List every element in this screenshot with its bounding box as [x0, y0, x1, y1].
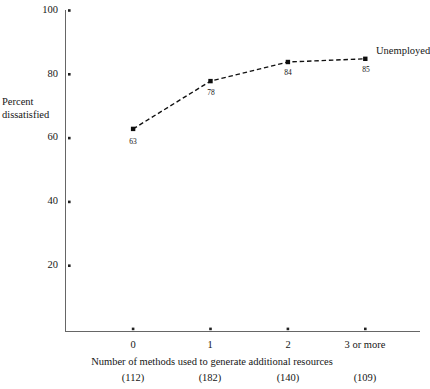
- y-tick-40: [68, 201, 71, 204]
- y-tick-60: [68, 137, 71, 140]
- x-axis-title: Number of methods used to generate addit…: [0, 356, 424, 368]
- sample-size-label-1: (182): [170, 372, 250, 384]
- x-tick-2: [287, 328, 290, 331]
- sample-size-label-2: (140): [248, 372, 328, 384]
- y-axis-tick-label-60: 60: [28, 131, 58, 143]
- y-axis-tick-label-20: 20: [28, 259, 58, 271]
- data-point-1: [208, 79, 212, 83]
- x-axis-tick-label-3-or-more: 3 or more: [325, 339, 405, 351]
- series-legend-label-unemployed: Unemployed: [376, 45, 430, 57]
- x-axis-tick-label-0: 0: [93, 339, 173, 351]
- data-point-0: [131, 127, 135, 131]
- x-axis-tick-label-1: 1: [170, 339, 250, 351]
- x-tick-3-or-more: [364, 328, 367, 331]
- series-line-unemployed: [133, 59, 365, 129]
- y-axis-title-line1: Percent: [2, 96, 66, 108]
- y-axis-title-line2: dissatisfied: [2, 109, 66, 121]
- data-point-label-3: 85: [351, 66, 381, 74]
- y-axis-tick-label-80: 80: [28, 68, 58, 80]
- data-point-label-0: 63: [118, 138, 148, 146]
- y-axis-tick-label-100: 100: [28, 4, 58, 16]
- x-tick-1: [209, 328, 212, 331]
- x-tick-0: [132, 328, 135, 331]
- sample-size-label-3: (109): [325, 372, 405, 384]
- y-axis-tick-label-40: 40: [28, 195, 58, 207]
- sample-size-label-0: (112): [93, 372, 173, 384]
- y-tick-20: [68, 264, 71, 267]
- data-point-2: [286, 60, 290, 64]
- series-markers-unemployed: [131, 57, 368, 131]
- y-tick-100: [68, 9, 71, 12]
- y-axis-ticks: [68, 9, 71, 267]
- y-tick-80: [68, 73, 71, 76]
- x-axis-ticks: [132, 328, 367, 331]
- data-point-label-2: 84: [273, 69, 303, 77]
- data-point-3: [363, 57, 367, 61]
- data-point-label-1: 78: [196, 89, 226, 97]
- x-axis-tick-label-2: 2: [248, 339, 328, 351]
